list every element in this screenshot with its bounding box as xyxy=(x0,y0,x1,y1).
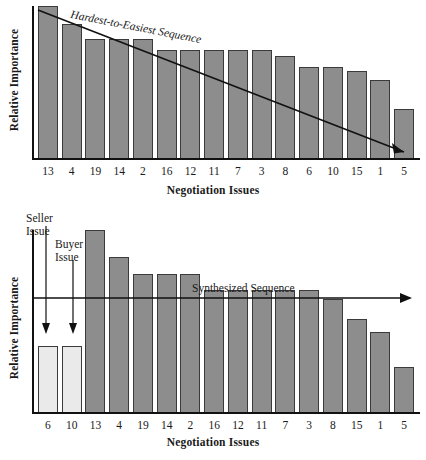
x-tick-group-top: 134191421612117386101515 xyxy=(36,164,416,178)
x-tick-label: 3 xyxy=(250,164,274,178)
bar-rect xyxy=(370,80,390,158)
plot-area-top xyxy=(32,6,420,160)
chart-panel-bottom: Relative Importance Seller Issue Buyer I… xyxy=(0,212,426,460)
bar-rect xyxy=(323,67,343,158)
bar-4 xyxy=(107,230,131,412)
bar-rect xyxy=(62,24,82,158)
x-tick-group-bottom: 610134191421612117381515 xyxy=(36,418,416,432)
callout-seller-issue: Seller Issue xyxy=(26,212,53,237)
bar-group-top xyxy=(36,6,416,158)
bar-rect xyxy=(323,299,343,412)
y-axis-label-top: Relative Importance xyxy=(8,20,20,140)
bar-13 xyxy=(84,230,108,412)
bar-rect xyxy=(394,109,414,158)
callout-buyer-issue: Buyer Issue xyxy=(55,238,83,263)
bar-rect xyxy=(85,230,105,412)
figure: Relative Importance Hardest-to-Easiest S… xyxy=(0,0,426,460)
bar-rect xyxy=(252,290,272,412)
bar-rect xyxy=(62,346,82,412)
bar-rect xyxy=(299,67,319,158)
x-tick-label: 5 xyxy=(392,418,416,432)
bar-rect xyxy=(109,257,129,412)
x-tick-label: 13 xyxy=(36,164,60,178)
x-tick-label: 3 xyxy=(297,418,321,432)
bar-1 xyxy=(369,6,393,158)
bar-rect xyxy=(109,39,129,158)
bar-rect xyxy=(85,39,105,158)
bar-3 xyxy=(250,6,274,158)
bar-rect xyxy=(228,290,248,412)
bar-rect xyxy=(204,290,224,412)
x-axis-line-bottom xyxy=(32,412,420,414)
bar-16 xyxy=(202,230,226,412)
bar-13 xyxy=(36,6,60,158)
x-axis-line-top xyxy=(32,158,420,160)
x-axis-label-bottom: Negotiation Issues xyxy=(0,436,426,448)
callout-buyer-line1: Buyer xyxy=(55,238,83,251)
x-tick-label: 15 xyxy=(345,164,369,178)
x-tick-label: 16 xyxy=(202,418,226,432)
x-tick-label: 6 xyxy=(36,418,60,432)
bar-7 xyxy=(226,6,250,158)
bar-rect xyxy=(252,50,272,158)
bar-15 xyxy=(345,230,369,412)
bar-rect xyxy=(180,50,200,158)
x-tick-label: 15 xyxy=(345,418,369,432)
x-tick-label: 19 xyxy=(84,164,108,178)
bar-rect xyxy=(38,346,58,412)
bar-15 xyxy=(345,6,369,158)
bar-rect xyxy=(370,332,390,412)
y-axis-line-top xyxy=(32,6,34,160)
bar-rect xyxy=(157,50,177,158)
callout-seller-line2: Issue xyxy=(26,225,53,238)
bar-rect xyxy=(347,319,367,412)
x-tick-label: 6 xyxy=(297,164,321,178)
bar-11 xyxy=(250,230,274,412)
x-tick-label: 19 xyxy=(131,418,155,432)
bar-6 xyxy=(297,6,321,158)
x-tick-label: 11 xyxy=(202,164,226,178)
x-tick-label: 10 xyxy=(60,418,84,432)
x-tick-label: 10 xyxy=(321,164,345,178)
x-tick-label: 13 xyxy=(84,418,108,432)
bar-10 xyxy=(321,6,345,158)
bar-5 xyxy=(392,230,416,412)
bar-rect xyxy=(157,274,177,412)
x-tick-label: 11 xyxy=(250,418,274,432)
bar-19 xyxy=(131,230,155,412)
bar-7 xyxy=(274,230,298,412)
bar-14 xyxy=(155,230,179,412)
x-tick-label: 14 xyxy=(155,418,179,432)
bar-2 xyxy=(179,230,203,412)
bar-rect xyxy=(299,290,319,412)
x-tick-label: 1 xyxy=(369,418,393,432)
x-tick-label: 2 xyxy=(179,418,203,432)
annotation-synthesized-sequence: Synthesized Sequence xyxy=(192,282,295,295)
x-tick-label: 7 xyxy=(274,418,298,432)
bar-11 xyxy=(202,6,226,158)
bar-group-bottom xyxy=(36,230,416,412)
bar-rect xyxy=(133,39,153,158)
bar-1 xyxy=(369,230,393,412)
callout-seller-line1: Seller xyxy=(26,212,53,225)
bar-8 xyxy=(321,230,345,412)
bar-8 xyxy=(274,6,298,158)
x-tick-label: 12 xyxy=(226,418,250,432)
bar-rect xyxy=(347,71,367,158)
bar-rect xyxy=(133,274,153,412)
bar-rect xyxy=(275,290,295,412)
bar-3 xyxy=(297,230,321,412)
x-tick-label: 7 xyxy=(226,164,250,178)
bar-19 xyxy=(84,6,108,158)
x-tick-label: 14 xyxy=(107,164,131,178)
x-tick-label: 2 xyxy=(131,164,155,178)
bar-rect xyxy=(394,367,414,413)
x-tick-label: 5 xyxy=(392,164,416,178)
bar-12 xyxy=(226,230,250,412)
plot-area-bottom xyxy=(32,230,420,414)
chart-panel-top: Relative Importance Hardest-to-Easiest S… xyxy=(0,0,426,208)
y-axis-label-bottom: Relative Importance xyxy=(8,268,20,388)
bar-rect xyxy=(38,6,58,158)
x-axis-label-top: Negotiation Issues xyxy=(0,184,426,196)
bar-rect xyxy=(204,50,224,158)
